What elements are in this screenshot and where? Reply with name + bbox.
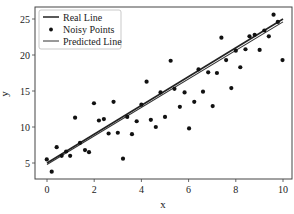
data-point xyxy=(262,28,266,32)
y-axis-label: y xyxy=(0,91,10,97)
data-point xyxy=(121,157,125,161)
data-point xyxy=(130,132,134,136)
data-point xyxy=(97,118,101,122)
legend-noisy-points-swatch xyxy=(49,28,53,32)
data-point xyxy=(50,170,54,174)
data-point xyxy=(271,13,275,17)
x-axis-ticks: 0246810 xyxy=(45,179,289,195)
data-point xyxy=(196,67,200,71)
data-point xyxy=(234,49,238,53)
data-point xyxy=(172,87,176,91)
data-point xyxy=(276,20,280,24)
data-point xyxy=(253,33,257,37)
x-tick-label: 0 xyxy=(45,184,50,195)
data-point xyxy=(182,90,186,94)
data-point xyxy=(247,34,251,38)
x-axis-label: x xyxy=(160,198,166,210)
data-point xyxy=(73,116,77,120)
data-point xyxy=(106,131,110,135)
data-point xyxy=(163,115,167,119)
x-tick-label: 10 xyxy=(278,184,288,195)
y-tick-label: 10 xyxy=(20,122,30,133)
y-axis-ticks: 510152025 xyxy=(20,14,35,169)
x-tick-label: 6 xyxy=(186,184,191,195)
legend-noisy-points-label: Noisy Points xyxy=(63,24,115,35)
data-point xyxy=(92,101,96,105)
data-point xyxy=(206,70,210,74)
data-point xyxy=(224,58,228,62)
data-point xyxy=(243,47,247,51)
y-tick-label: 25 xyxy=(20,14,30,25)
data-point xyxy=(215,71,219,75)
legend: Real Line Noisy Points Predicted Line xyxy=(39,10,122,49)
data-point xyxy=(178,105,182,109)
data-point xyxy=(192,100,196,104)
data-point xyxy=(158,90,162,94)
data-point xyxy=(45,157,49,161)
data-point xyxy=(125,115,129,119)
data-point xyxy=(87,150,91,154)
data-point xyxy=(135,119,139,123)
data-point xyxy=(78,141,82,145)
data-point xyxy=(267,34,271,38)
data-point xyxy=(102,117,106,121)
data-point xyxy=(139,103,143,107)
data-point xyxy=(55,145,59,149)
y-tick-label: 20 xyxy=(20,50,30,61)
data-point xyxy=(201,90,205,94)
y-tick-label: 5 xyxy=(25,158,30,169)
data-point xyxy=(83,148,87,152)
y-tick-label: 15 xyxy=(20,86,30,97)
data-point xyxy=(169,59,173,63)
data-point xyxy=(258,48,262,52)
data-point xyxy=(238,65,242,69)
legend-predicted-line-label: Predicted Line xyxy=(63,36,122,47)
data-point xyxy=(154,125,158,129)
data-point xyxy=(60,154,64,158)
x-tick-label: 8 xyxy=(233,184,238,195)
data-point xyxy=(149,118,153,122)
data-point xyxy=(111,100,115,104)
data-point xyxy=(68,154,72,158)
data-point xyxy=(219,36,223,40)
data-point xyxy=(116,131,120,135)
data-point xyxy=(229,86,233,90)
data-point xyxy=(144,80,148,84)
x-tick-label: 4 xyxy=(139,184,144,195)
scatter-chart: 0246810 510152025 x y Real Line Noisy Po… xyxy=(0,0,294,214)
data-point xyxy=(211,104,215,108)
legend-real-line-label: Real Line xyxy=(63,12,103,23)
x-tick-label: 2 xyxy=(92,184,97,195)
data-point xyxy=(187,126,191,130)
data-point xyxy=(280,58,284,62)
data-point xyxy=(64,149,68,153)
